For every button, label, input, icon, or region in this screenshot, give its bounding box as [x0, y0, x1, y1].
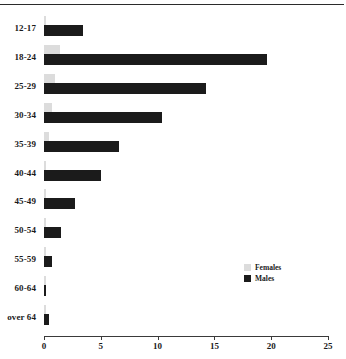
- bar-females: [44, 218, 46, 227]
- bar-row: 18-24: [44, 43, 328, 71]
- legend-swatch-females-icon: [244, 264, 251, 271]
- bar-row: 50-54: [44, 216, 328, 244]
- bar-females: [44, 276, 46, 285]
- category-label-12-17: 12-17: [15, 23, 37, 33]
- x-tick-0: [44, 336, 45, 340]
- category-label-18-24: 18-24: [15, 52, 37, 62]
- bar-row: 25-29: [44, 72, 328, 100]
- bar-males: [44, 83, 206, 94]
- bar-row: 60-64: [44, 274, 328, 302]
- category-label-60-64: 60-64: [15, 283, 37, 293]
- bar-row: 45-49: [44, 187, 328, 215]
- bar-males: [44, 256, 52, 267]
- bar-females: [44, 161, 46, 170]
- bar-males: [44, 54, 267, 65]
- legend-label-males: Males: [255, 273, 274, 284]
- bar-row: 40-44: [44, 159, 328, 187]
- bar-females: [44, 103, 52, 112]
- legend-item-males: Males: [244, 273, 281, 284]
- chart-legend: Females Males: [244, 262, 281, 284]
- category-label-45-49: 45-49: [15, 196, 37, 206]
- category-label-40-44: 40-44: [15, 168, 37, 178]
- bar-males: [44, 170, 101, 181]
- bar-males: [44, 198, 75, 209]
- bar-males: [44, 285, 46, 296]
- legend-label-females: Females: [255, 262, 281, 273]
- plot-area: 12-1718-2425-2930-3435-3940-4445-4950-54…: [44, 14, 328, 336]
- category-label-50-54: 50-54: [15, 225, 37, 235]
- category-label-55-59: 55-59: [15, 254, 37, 264]
- bar-females: [44, 247, 46, 256]
- bar-males: [44, 25, 83, 36]
- bar-row: over 64: [44, 303, 328, 331]
- bar-chart: 12-1718-2425-2930-3435-3940-4445-4950-54…: [0, 0, 346, 359]
- x-tick-label-0: 0: [42, 341, 47, 351]
- top-divider-rule: [0, 4, 344, 5]
- x-tick-5: [101, 336, 102, 340]
- x-tick-label-10: 10: [153, 341, 162, 351]
- category-label-30-34: 30-34: [15, 110, 37, 120]
- legend-item-females: Females: [244, 262, 281, 273]
- bar-row: 55-59: [44, 245, 328, 273]
- x-tick-label-25: 25: [324, 341, 333, 351]
- bar-males: [44, 314, 49, 325]
- category-label-35-39: 35-39: [15, 139, 37, 149]
- bar-females: [44, 189, 46, 198]
- bar-females: [44, 74, 55, 83]
- category-label-25-29: 25-29: [15, 81, 37, 91]
- category-label-over-64: over 64: [7, 312, 36, 322]
- x-axis-line: [44, 336, 328, 337]
- bar-row: 12-17: [44, 14, 328, 42]
- bar-row: 35-39: [44, 130, 328, 158]
- legend-swatch-males-icon: [244, 275, 251, 282]
- bar-row: 30-34: [44, 101, 328, 129]
- bar-males: [44, 141, 119, 152]
- x-tick-20: [271, 336, 272, 340]
- x-tick-label-15: 15: [210, 341, 219, 351]
- x-tick-15: [214, 336, 215, 340]
- bar-males: [44, 112, 162, 123]
- bar-females: [44, 132, 49, 141]
- bar-females: [44, 45, 60, 54]
- x-tick-25: [328, 336, 329, 340]
- bar-males: [44, 227, 61, 238]
- x-tick-label-20: 20: [267, 341, 276, 351]
- x-tick-10: [158, 336, 159, 340]
- bar-females: [44, 16, 46, 25]
- x-tick-label-5: 5: [99, 341, 104, 351]
- bar-females: [44, 305, 46, 314]
